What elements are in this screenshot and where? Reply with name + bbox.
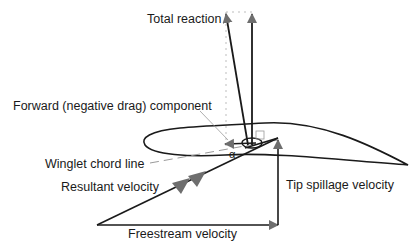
freestream-velocity-label: Freestream velocity — [128, 228, 237, 241]
tip-spillage-velocity-label: Tip spillage velocity — [286, 179, 394, 192]
resultant-velocity-arrowhead-1 — [172, 178, 190, 194]
right-angle-marker — [256, 131, 264, 139]
angle-of-attack-symbol: α — [229, 149, 235, 160]
winglet-airfoil — [144, 123, 408, 165]
resultant-velocity-arrowhead-2 — [188, 171, 206, 187]
total-reaction-label: Total reaction — [147, 13, 221, 26]
forward-component-arrow — [225, 143, 256, 144]
forward-component-label: Forward (negative drag) component — [13, 100, 212, 113]
winglet-chord-line-label: Winglet chord line — [45, 158, 144, 171]
resultant-velocity-label: Resultant velocity — [61, 181, 159, 194]
winglet-force-diagram — [0, 0, 419, 250]
